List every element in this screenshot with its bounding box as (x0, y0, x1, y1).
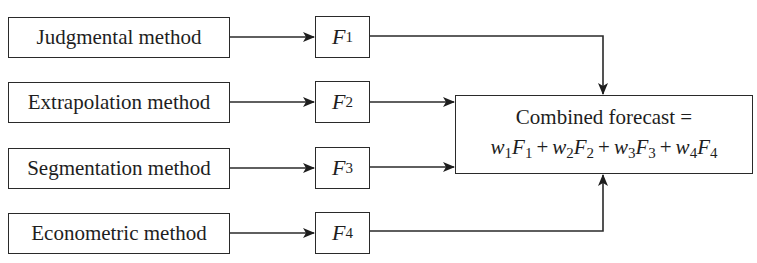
forecast-symbol: F (635, 135, 648, 159)
forecast-symbol: F (574, 135, 587, 159)
forecast-index: 1 (345, 29, 353, 46)
forecast-index: 2 (587, 145, 595, 161)
weight-symbol: w (491, 135, 505, 159)
forecast-index: 2 (345, 94, 353, 111)
combined-forecast-title: Combined forecast = (516, 102, 692, 132)
arrow-f1-to-combined (370, 36, 603, 94)
method-box-judgmental: Judgmental method (8, 17, 230, 58)
forecast-index: 4 (345, 225, 353, 242)
method-label: Extrapolation method (28, 90, 211, 115)
forecast-symbol: F (697, 135, 710, 159)
forecast-index: 3 (648, 145, 656, 161)
method-label: Econometric method (31, 221, 207, 246)
method-label: Segmentation method (27, 156, 211, 181)
forecast-symbol: F (332, 220, 345, 246)
forecast-symbol: F (332, 155, 345, 181)
forecast-index: 3 (345, 160, 353, 177)
forecast-box-f1: F1 (315, 16, 370, 58)
weight-symbol: w (676, 135, 690, 159)
forecast-box-f4: F4 (315, 212, 370, 254)
method-box-extrapolation: Extrapolation method (8, 82, 230, 123)
method-box-segmentation: Segmentation method (8, 148, 230, 189)
weight-index: 1 (505, 145, 513, 161)
plus-operator: + (656, 135, 676, 159)
plus-operator: + (532, 135, 552, 159)
combined-forecast-box: Combined forecast = w1F1+w2F2+w3F3+w4F4 (455, 95, 753, 174)
forecast-symbol: F (512, 135, 525, 159)
forecast-box-f2: F2 (315, 81, 370, 123)
combined-forecast-formula: w1F1+w2F2+w3F3+w4F4 (491, 132, 718, 168)
plus-operator: + (594, 135, 614, 159)
forecast-symbol: F (332, 89, 345, 115)
weight-index: 2 (566, 145, 574, 161)
arrow-f4-to-combined (370, 175, 603, 231)
method-label: Judgmental method (36, 25, 201, 50)
forecast-symbol: F (332, 24, 345, 50)
weight-symbol: w (614, 135, 628, 159)
forecast-box-f3: F3 (315, 147, 370, 189)
weight-index: 4 (690, 145, 698, 161)
weight-symbol: w (552, 135, 566, 159)
forecast-index: 4 (710, 145, 718, 161)
method-box-econometric: Econometric method (8, 213, 230, 254)
